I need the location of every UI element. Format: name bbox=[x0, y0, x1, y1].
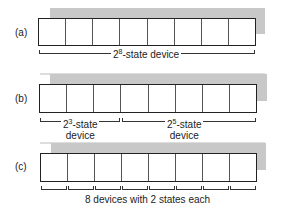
cell bbox=[176, 85, 203, 112]
cell bbox=[203, 85, 230, 112]
cell bbox=[66, 19, 93, 45]
register-a bbox=[38, 18, 256, 46]
cell bbox=[68, 154, 95, 181]
register-c bbox=[40, 153, 257, 182]
cell bbox=[41, 154, 68, 181]
panel-label-a: (a) bbox=[15, 27, 27, 38]
cell bbox=[67, 85, 94, 112]
cell bbox=[175, 19, 202, 45]
cell bbox=[95, 154, 122, 181]
panel-label-b: (b) bbox=[15, 93, 27, 104]
bracket bbox=[41, 186, 67, 190]
cell bbox=[229, 19, 255, 45]
cell bbox=[120, 19, 147, 45]
panel-label-c: (c) bbox=[15, 161, 27, 172]
brackets-c bbox=[41, 186, 256, 191]
bracket bbox=[122, 186, 148, 190]
caption-b-group1: 23-state device bbox=[61, 116, 99, 141]
bracket bbox=[230, 186, 256, 190]
cell bbox=[93, 19, 120, 45]
cell bbox=[230, 154, 256, 181]
cell bbox=[176, 154, 203, 181]
cell bbox=[149, 154, 176, 181]
cell bbox=[202, 19, 229, 45]
cell bbox=[94, 85, 121, 112]
caption-c: 8 devices with 2 states each bbox=[83, 194, 212, 205]
cell bbox=[121, 85, 148, 112]
bracket bbox=[203, 186, 229, 190]
caption-a: 28-state device bbox=[111, 48, 181, 60]
bracket bbox=[95, 186, 121, 190]
register-b bbox=[39, 84, 257, 113]
bracket bbox=[149, 186, 175, 190]
cell bbox=[230, 85, 256, 112]
cell bbox=[40, 85, 67, 112]
bracket bbox=[176, 186, 202, 190]
cell bbox=[148, 19, 175, 45]
bracket bbox=[68, 186, 94, 190]
caption-b-group2: 25-state device bbox=[165, 116, 203, 141]
cell bbox=[203, 154, 230, 181]
cell bbox=[39, 19, 66, 45]
cell bbox=[122, 154, 149, 181]
cell bbox=[149, 85, 176, 112]
